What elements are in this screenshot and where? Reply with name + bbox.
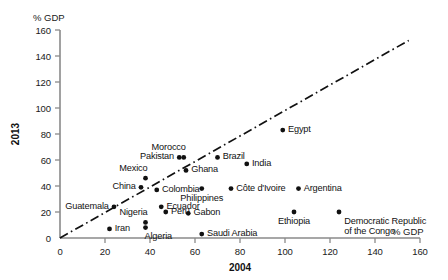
data-point-label: Nigeria bbox=[119, 209, 147, 219]
data-point-label: India bbox=[252, 159, 271, 169]
y-axis-tick-label: 140 bbox=[0, 51, 51, 62]
axes-group bbox=[55, 30, 420, 243]
data-point-label: Philippines bbox=[180, 194, 223, 204]
scatter-chart: 0204060801001201401600204060801001201401… bbox=[0, 0, 448, 280]
y-axis-tick-label: 160 bbox=[0, 25, 51, 36]
data-point-marker bbox=[215, 155, 220, 160]
data-point-label: Saudi Arabia bbox=[207, 229, 257, 239]
data-point-label: Pakistan bbox=[140, 153, 174, 163]
data-point-label: Ghana bbox=[191, 166, 218, 176]
data-point-marker bbox=[337, 210, 342, 215]
y-axis-tick-label: 80 bbox=[0, 129, 51, 140]
data-point-marker bbox=[184, 168, 189, 173]
data-point-marker bbox=[199, 186, 204, 191]
data-point-label: Argentina bbox=[304, 184, 342, 194]
data-point-label: Algeria bbox=[145, 232, 173, 242]
data-point-marker bbox=[244, 162, 249, 167]
x-axis-tick-label: 20 bbox=[100, 246, 110, 257]
data-point-label: Egypt bbox=[288, 125, 311, 135]
data-point-marker bbox=[199, 232, 204, 237]
data-point-marker bbox=[112, 204, 117, 209]
data-point-label: Gabon bbox=[193, 208, 220, 218]
y-axis-tick-label: 20 bbox=[0, 207, 51, 218]
y-axis-tick-label: 0 bbox=[0, 233, 51, 244]
x-axis-tick-label: 0 bbox=[57, 246, 62, 257]
data-point-marker bbox=[177, 155, 182, 160]
data-point-marker bbox=[159, 204, 164, 209]
data-point-marker bbox=[139, 185, 144, 190]
x-axis-tick-label: 140 bbox=[367, 246, 383, 257]
data-point-label: Ethiopia bbox=[278, 217, 310, 227]
x-axis-tick-label: 40 bbox=[145, 246, 155, 257]
data-point-marker bbox=[280, 128, 285, 133]
data-point-marker bbox=[154, 188, 159, 193]
x-axis-tick-label: 120 bbox=[322, 246, 338, 257]
y-axis-tick-label: 60 bbox=[0, 155, 51, 166]
data-point-label: Morocco bbox=[152, 144, 186, 154]
data-point-label: Côte d'Ivoire bbox=[236, 184, 285, 194]
data-point-marker bbox=[181, 155, 186, 160]
data-point-marker bbox=[292, 210, 297, 215]
data-point-label-line: Democratic Republic bbox=[344, 216, 426, 226]
x-axis-tick-label: 160 bbox=[412, 246, 428, 257]
data-point-label: China bbox=[113, 182, 136, 192]
x-axis-unit-label: % GDP bbox=[392, 226, 424, 237]
y-axis-title: 2013 bbox=[10, 123, 21, 145]
y-axis-tick-label: 120 bbox=[0, 77, 51, 88]
data-point-label: Iran bbox=[115, 224, 130, 234]
x-axis-tick-label: 60 bbox=[190, 246, 200, 257]
data-point-label: Peru bbox=[171, 207, 190, 217]
data-point-marker bbox=[143, 220, 148, 225]
x-axis-tick-label: 100 bbox=[277, 246, 293, 257]
y-axis-tick-label: 100 bbox=[0, 103, 51, 114]
data-point-label: Brazil bbox=[223, 153, 245, 163]
data-point-marker bbox=[107, 227, 112, 232]
data-point-marker bbox=[143, 176, 148, 181]
data-point-marker bbox=[296, 186, 301, 191]
x-axis-title: 2004 bbox=[229, 262, 251, 273]
y-axis-unit-label: % GDP bbox=[33, 12, 65, 23]
data-point-marker bbox=[143, 225, 148, 230]
x-axis-tick-label: 80 bbox=[235, 246, 245, 257]
data-point-label: Guatemala bbox=[65, 202, 109, 212]
data-point-marker bbox=[229, 186, 234, 191]
y-axis-tick-label: 40 bbox=[0, 181, 51, 192]
data-point-label: Mexico bbox=[119, 164, 147, 174]
